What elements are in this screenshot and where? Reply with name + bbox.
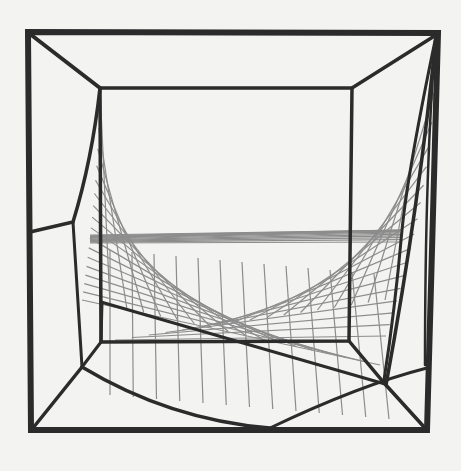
string-art-sculpture bbox=[0, 0, 461, 471]
sculpture-photo: Black-and-white photo of a wireframe cub… bbox=[0, 0, 461, 471]
string-surface bbox=[82, 36, 436, 419]
